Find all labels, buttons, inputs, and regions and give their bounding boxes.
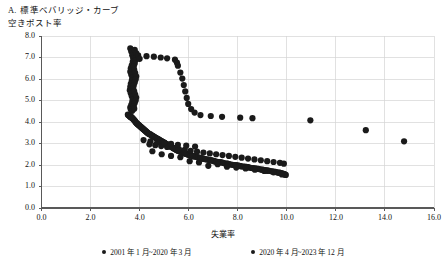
data-point <box>147 138 153 144</box>
tick-marks <box>39 36 435 211</box>
data-point <box>192 143 198 149</box>
x-tick-label: 8.0 <box>218 213 258 222</box>
data-point <box>140 137 146 143</box>
data-point <box>219 152 225 158</box>
data-point <box>158 54 164 60</box>
data-point <box>200 149 206 155</box>
data-point <box>149 132 155 138</box>
data-point <box>205 163 211 169</box>
data-point <box>183 143 189 149</box>
gridlines <box>42 36 435 208</box>
data-point <box>177 69 183 75</box>
data-point <box>233 164 239 170</box>
x-tick-label: 2.0 <box>71 213 111 222</box>
data-point <box>237 115 243 121</box>
x-tick-label: 0.0 <box>22 213 62 222</box>
legend-item-0: 2001 年 1 月~2020 年 3 月 <box>102 246 191 257</box>
y-tick-label: 0.0 <box>8 203 35 212</box>
data-point <box>168 141 174 147</box>
data-point <box>239 155 245 161</box>
legend-label-1: 2020 年 4 月~2023 年 12 月 <box>259 246 344 257</box>
legend-marker-icon-0 <box>102 250 106 254</box>
data-point <box>137 56 143 62</box>
data-point <box>252 167 258 173</box>
y-tick-label: 8.0 <box>8 31 35 40</box>
data-point <box>175 63 181 69</box>
data-point <box>249 115 255 121</box>
data-point <box>129 115 135 121</box>
y-tick-label: 3.0 <box>8 138 35 147</box>
y-tick-label: 4.0 <box>8 117 35 126</box>
x-tick-label: 6.0 <box>169 213 209 222</box>
data-point <box>149 148 155 154</box>
legend-marker-icon-1 <box>251 250 255 254</box>
data-point <box>187 158 193 164</box>
data-point <box>182 88 188 94</box>
data-point <box>251 156 257 162</box>
data-point <box>208 113 214 119</box>
data-point <box>270 169 276 175</box>
data-point <box>202 156 208 162</box>
y-tick-label: 7.0 <box>8 52 35 61</box>
data-point <box>401 138 407 144</box>
data-point <box>154 139 160 145</box>
y-tick-label: 2.0 <box>8 160 35 169</box>
data-point <box>159 151 165 157</box>
data-point <box>279 171 285 177</box>
y-tick-label: 6.0 <box>8 74 35 83</box>
data-point <box>208 157 214 163</box>
data-point <box>281 161 287 167</box>
data-point <box>207 150 213 156</box>
data-point <box>224 164 230 170</box>
data-point <box>191 109 197 115</box>
data-point <box>363 127 369 133</box>
data-point <box>215 161 221 167</box>
x-tick-label: 14.0 <box>365 213 405 222</box>
data-point <box>219 114 225 120</box>
beveridge-curve-figure: A.標準ベバリッジ・カーブ 空きポスト率 0.01.02.03.04.05.06… <box>0 0 446 267</box>
x-tick-label: 16.0 <box>414 213 446 222</box>
legend-item-1: 2020 年 4 月~2023 年 12 月 <box>251 246 344 257</box>
data-point <box>226 153 232 159</box>
series-points-2020-2023 <box>127 45 407 177</box>
data-point <box>181 82 187 88</box>
y-tick-label: 5.0 <box>8 95 35 104</box>
data-point <box>184 95 190 101</box>
data-point <box>197 112 203 118</box>
data-point <box>264 158 270 164</box>
data-point <box>243 165 249 171</box>
data-point <box>261 168 267 174</box>
data-point <box>177 154 183 160</box>
data-point <box>258 157 264 163</box>
data-point <box>131 106 137 112</box>
data-point <box>151 54 157 60</box>
y-tick-label: 1.0 <box>8 181 35 190</box>
data-point <box>232 154 238 160</box>
chart-legend: 2001 年 1 月~2020 年 3 月 2020 年 4 月~2023 年 … <box>0 246 446 257</box>
data-point <box>175 142 181 148</box>
data-point <box>164 55 170 61</box>
data-point <box>196 159 202 165</box>
x-tick-label: 12.0 <box>316 213 356 222</box>
x-axis-title: 失業率 <box>0 228 446 239</box>
data-point <box>213 151 219 157</box>
x-tick-label: 10.0 <box>267 213 307 222</box>
x-tick-label: 4.0 <box>120 213 160 222</box>
data-point <box>245 155 251 161</box>
data-point <box>179 75 185 81</box>
data-point <box>270 159 276 165</box>
data-point <box>143 53 149 59</box>
scatter-plot-canvas <box>0 0 446 267</box>
data-point <box>168 153 174 159</box>
data-point <box>161 140 167 146</box>
legend-label-0: 2001 年 1 月~2020 年 3 月 <box>110 246 191 257</box>
data-point <box>307 117 313 123</box>
